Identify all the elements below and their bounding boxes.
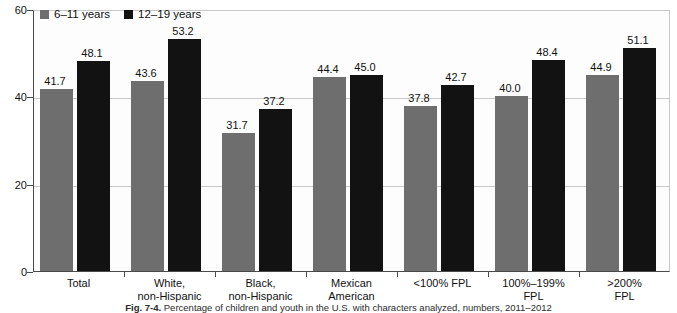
bar [77,61,110,271]
caption-text: Percentage of children and youth in the … [164,302,552,313]
x-axis-category-label: 100%–199% FPL [502,277,564,303]
x-axis-tick-mark [124,272,125,277]
figure-caption: Fig. 7-4. Percentage of children and you… [0,302,677,313]
x-axis-tick-mark [397,272,398,277]
plot-area [33,10,670,272]
bar-value-label: 37.8 [408,92,429,104]
bar-value-label: 53.2 [172,25,193,37]
bar-value-label: 42.7 [445,71,466,83]
bar-value-label: 44.9 [590,61,611,73]
bar-value-label: 48.4 [536,46,557,58]
bar-value-label: 37.2 [263,95,284,107]
bar [259,109,292,271]
bar [441,85,474,271]
legend-label: 6–11 years [54,8,110,20]
bar [495,96,528,271]
y-axis-tick-label: 0 [0,266,27,278]
bar [350,75,383,272]
y-axis-tick-mark [27,272,33,273]
bar-value-label: 48.1 [81,47,102,59]
y-axis-tick-label: 60 [0,4,27,16]
bar [40,89,73,271]
bar [131,81,164,271]
x-axis-tick-mark [215,272,216,277]
x-axis-tick-mark [579,272,580,277]
bar-value-label: 45.0 [354,61,375,73]
bar [586,75,619,271]
legend-item: 12–19 years [124,8,201,20]
y-axis-tick-label: 20 [0,179,27,191]
bar-value-label: 44.4 [317,63,338,75]
legend-item: 6–11 years [40,8,110,20]
bar [404,106,437,271]
bar [623,48,656,271]
x-axis-category-label: Total [67,277,90,290]
x-axis-category-label: <100% FPL [414,277,472,290]
bar [532,60,565,271]
bar-value-label: 51.1 [627,34,648,46]
x-axis-category-label: Mexican American [328,277,374,303]
bar [222,133,255,271]
bar-value-label: 40.0 [499,82,520,94]
chart-legend: 6–11 years12–19 years [40,8,201,20]
x-axis-tick-mark [306,272,307,277]
y-axis-tick-label: 40 [0,91,27,103]
x-axis-tick-mark [488,272,489,277]
bar [313,77,346,271]
x-axis-category-label: Black, non-Hispanic [228,277,292,303]
x-axis-category-label: >200% FPL [607,277,642,303]
x-axis-category-label: White, non-Hispanic [137,277,201,303]
legend-swatch-icon [40,10,49,19]
caption-label: Fig. 7-4. [125,302,161,313]
legend-label: 12–19 years [138,8,201,20]
legend-swatch-icon [124,10,133,19]
bar-value-label: 31.7 [226,119,247,131]
bar-value-label: 41.7 [44,75,65,87]
bar-value-label: 43.6 [135,67,156,79]
bar [168,39,201,271]
